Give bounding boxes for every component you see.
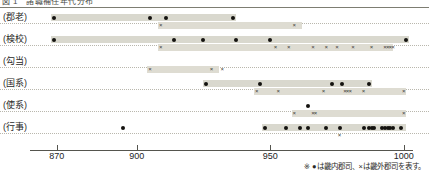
marker-dot: [172, 38, 176, 42]
marker-cross: ×: [390, 44, 395, 51]
marker-cross: ×: [361, 88, 366, 95]
marker-cross: ×: [321, 88, 326, 95]
marker-dot: [263, 126, 267, 130]
marker-dot: [204, 82, 208, 86]
axis-tick: [404, 145, 405, 150]
marker-dot: [234, 38, 238, 42]
marker-cross: ×: [334, 44, 339, 51]
axis-tick: [57, 145, 58, 150]
span-band-dot: [51, 36, 409, 43]
marker-dot: [391, 126, 395, 130]
marker-cross: ×: [276, 88, 281, 95]
marker-dot: [298, 126, 302, 130]
marker-dot: [52, 38, 56, 42]
axis-tick-label: 950: [263, 151, 278, 161]
marker-cross: ×: [401, 110, 406, 117]
marker-cross: ×: [337, 132, 342, 139]
marker-dot: [372, 126, 376, 130]
marker-cross: ×: [220, 66, 225, 73]
span-band-cross: [158, 22, 302, 29]
category-label-gunro: (郡老): [3, 12, 27, 23]
marker-cross: ×: [158, 22, 163, 29]
marker-cross: ×: [324, 44, 329, 51]
marker-cross: ×: [401, 88, 406, 95]
marker-cross: ×: [209, 66, 214, 73]
chart-figure: 図 1 諸職補任年代分布 (郡老)(検校)(勾当)(国系)(使系)(行事) ××…: [0, 0, 429, 170]
category-label-gyoji: (行事): [3, 122, 27, 133]
marker-cross: ×: [350, 44, 355, 51]
marker-dot: [362, 126, 366, 130]
axis-tick-label: 870: [49, 151, 64, 161]
marker-cross: ×: [273, 44, 278, 51]
marker-dot: [52, 16, 56, 20]
axis-tick-label: 900: [129, 151, 144, 161]
marker-cross: ×: [148, 66, 153, 73]
plot-area: ××××××××××××××××××××××××××××××: [30, 7, 417, 145]
marker-dot: [231, 16, 235, 20]
marker-dot: [399, 126, 403, 130]
marker-dot: [324, 126, 328, 130]
marker-dot: [367, 82, 371, 86]
marker-dot: [284, 126, 288, 130]
marker-cross: ×: [254, 88, 259, 95]
marker-dot: [121, 126, 125, 130]
marker-cross: ×: [310, 44, 315, 51]
category-label-koto: (勾当): [3, 56, 27, 67]
marker-cross: ×: [292, 110, 297, 117]
marker-dot: [164, 16, 168, 20]
marker-dot: [148, 16, 152, 20]
marker-cross: ×: [313, 110, 318, 117]
category-label-kengyo: (検校): [3, 34, 27, 45]
marker-cross: ×: [348, 88, 353, 95]
axis-tick: [137, 145, 138, 150]
marker-dot: [340, 82, 344, 86]
category-label-kokukei: (国系): [3, 78, 27, 89]
category-label-shikei: (使系): [3, 100, 27, 111]
marker-dot: [330, 82, 334, 86]
marker-dot: [306, 126, 310, 130]
span-band-cross: [292, 110, 407, 117]
marker-cross: ×: [158, 44, 163, 51]
figure-footnote: ※ ●は畿内郡司、×は畿外郡司を表す。: [304, 160, 425, 170]
marker-cross: ×: [369, 44, 374, 51]
x-axis-line: [30, 150, 413, 151]
marker-dot: [404, 38, 408, 42]
marker-dot: [268, 38, 272, 42]
span-band-dot: [51, 14, 235, 21]
marker-cross: ×: [286, 44, 291, 51]
span-band-dot: [203, 80, 371, 87]
marker-cross: ×: [292, 22, 297, 29]
marker-dot: [258, 82, 262, 86]
figure-title-clipped: 図 1 諸職補任年代分布: [0, 0, 429, 7]
marker-dot: [306, 104, 310, 108]
figure-title-text: 図 1 諸職補任年代分布: [2, 0, 93, 6]
axis-tick: [270, 145, 271, 150]
marker-dot: [338, 126, 342, 130]
